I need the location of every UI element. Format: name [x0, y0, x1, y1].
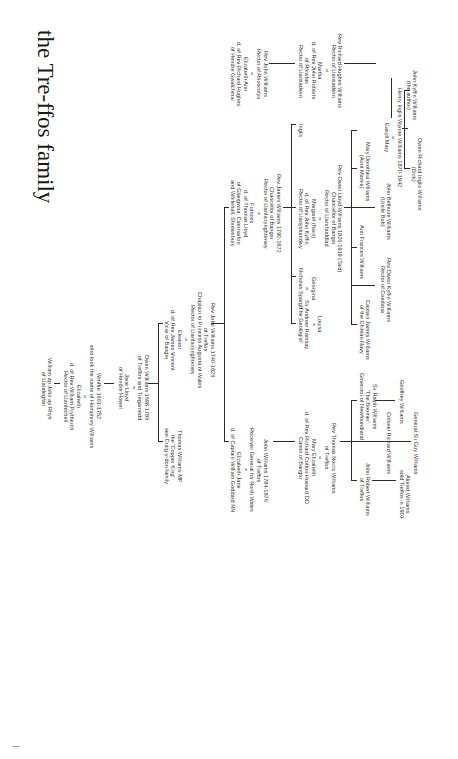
node-line: Chancellor of Bangor: [330, 165, 337, 272]
connector-line: [291, 323, 296, 324]
connector-line: [404, 90, 405, 168]
connector-line: [351, 247, 357, 248]
node-line: Rev Richard Hughes Williams: [337, 34, 344, 108]
node-line: Chaplain to Princess Augusta of Wales: [196, 292, 203, 388]
node-william-ap-john: William ap John ap Rhysof Llandegfan: [40, 358, 53, 420]
node-line: John Williams 1784-1876: [262, 428, 269, 512]
node-line: =: [130, 355, 137, 420]
node-line: Rector of Llanystumdwy: [297, 165, 304, 272]
node-line: of Treffos: [255, 428, 262, 512]
node-line: Rector of Llanfairynghornwy: [189, 292, 196, 388]
node-line: (Aunt Mamie): [358, 142, 365, 201]
node-line: d. of Rev William Prytherch: [69, 345, 76, 448]
node-line: Georgina: [310, 268, 317, 309]
node-line: =: [304, 268, 311, 309]
node-line: d. of Thomas Lloyd: [242, 174, 249, 253]
connector-line: [273, 441, 295, 442]
node-inglis: Inglis: [297, 124, 304, 137]
node-line: (Dick): [410, 138, 417, 210]
node-line: Mary Dorothea Williams: [365, 142, 372, 201]
node-line: Jane Lloyd: [124, 355, 131, 420]
node-line: Elizabeth: [75, 345, 82, 448]
node-line: Receiver General for North Wales: [249, 428, 256, 512]
connector-line: [351, 324, 357, 325]
connector-line: [351, 130, 352, 324]
node-rev-richard-hughes-williams: Rev Richard Hughes WilliamsRector of Lla…: [297, 34, 343, 108]
connector-line: [404, 90, 410, 91]
connector-line: [158, 323, 163, 324]
node-sir-ralph-williams: Sir Ralph Williams'The Boomer'Governor o…: [358, 373, 378, 440]
node-wmffre: Wmffre 1661-1752who took the name of Hum…: [62, 345, 102, 448]
node-line: Ann Frances Williams: [358, 225, 365, 279]
node-ann-frances-williams: Ann Frances Williams: [358, 225, 365, 279]
node-mary-dorothea-williams: Mary Dorothea Williams(Aunt Mamie): [358, 142, 371, 201]
node-line: Rector of Llanfairynghornwy: [262, 174, 269, 253]
node-line: Frances: [249, 174, 256, 253]
connector-line: [404, 168, 410, 169]
node-line: Easylt Mary: [383, 88, 390, 187]
connector-line: [351, 285, 375, 286]
node-line: Owen Williams 1698-1786: [143, 355, 150, 420]
node-line: =: [323, 34, 330, 108]
node-line: Thomas Williams MP: [176, 428, 183, 484]
node-line: Elizabeth Jane: [236, 428, 243, 512]
node-line: of Treffos and Tregarnedd: [137, 355, 144, 420]
node-line: see Craig-y-don family: [163, 428, 170, 484]
node-line: Governor of Newfoundland: [358, 373, 365, 440]
node-line: Inglis: [297, 124, 304, 137]
node-line: Wmffre 1661-1752: [95, 345, 102, 448]
node-line: of Treffos: [358, 463, 365, 516]
node-line: Margaret (Nain): [310, 165, 317, 272]
node-line: Vicar of Bangor: [163, 292, 170, 388]
node-line: John Kyffin Williams: [412, 70, 419, 120]
node-colonel-richard-williams: Colonel Richard Williams: [385, 412, 392, 474]
node-line: Alured Williams: [405, 470, 412, 519]
node-line: Owen Richard Inglis Williams: [417, 138, 424, 210]
node-line: Colonel Richard Williams: [385, 412, 392, 474]
node-line: of Treffos: [323, 412, 330, 504]
node-line: =: [183, 292, 190, 388]
node-line: of Hendre Howel: [117, 355, 124, 420]
connector-line: [351, 130, 357, 131]
connector-line: [148, 383, 158, 384]
connector-line: [291, 276, 296, 277]
node-line: Martha: [317, 34, 324, 108]
connector-line: [375, 400, 395, 401]
node-line: Rector of Rhoscolyn: [255, 42, 262, 106]
node-line: Rector of Llanrhuddlad: [323, 165, 330, 272]
node-line: Elizabeth Ann: [242, 42, 249, 106]
node-line: (the author): [405, 70, 412, 120]
node-general-sir-guy-williams: General Sir Guy Williams: [412, 412, 419, 474]
node-line: of Glangwna, Caernarfon: [236, 174, 243, 253]
node-captain-james-williams: Captain James Williamsof the Chilean Nav…: [358, 300, 371, 360]
node-henry-inglis-wynne-williams: Henry Inglis Wynne Williams 1870-1942=Ea…: [383, 88, 403, 187]
node-line: d. of Rev James Vincent: [170, 292, 177, 388]
node-rev-owen-lloyd-williams: Rev Owen Lloyd Williams 1826-1919 (Taid)…: [297, 165, 343, 272]
node-line: d. of Rev John Kyffin: [304, 165, 311, 272]
node-line: =: [255, 174, 262, 253]
node-line: Rev Owen Kyffin Williams: [386, 258, 393, 322]
connector-line: [291, 124, 292, 324]
connector-line: [344, 63, 376, 64]
page-mark: [12, 746, 20, 747]
node-line: =: [317, 165, 324, 272]
connector-line: [211, 323, 224, 324]
connector-line: [158, 323, 159, 441]
node-geoffrey-williams: Geoffrey Williams: [398, 380, 405, 424]
node-line: =: [249, 42, 256, 106]
node-line: Henry Inglis Wynne Williams 1870-1942: [396, 88, 403, 187]
connector-line: [104, 383, 114, 384]
node-line: Louisa: [317, 300, 324, 349]
connector-line: [372, 480, 396, 481]
node-line: Rector of Coedana: [379, 258, 386, 322]
node-thomas-williams-mp: Thomas Williams MPthe 'Copper King'see C…: [163, 428, 183, 484]
node-line: d. of Captain William Goddard RN: [229, 428, 236, 512]
node-line: Rev James Williams 1790-1872: [275, 174, 282, 253]
connector-line: [224, 441, 229, 442]
node-line: Chancellor of Bangor: [269, 174, 276, 253]
connector-line: [402, 128, 408, 129]
node-rev-john-williams-1740: Rev John Williams 1740-1826of TreffosCha…: [163, 292, 216, 388]
node-georgina: Georgina=Nicholas Spargo: [297, 268, 317, 309]
node-line: Rev John Williams: [262, 42, 269, 106]
node-john-bethune-williams: John Bethune Williams(Uncle Bob): [379, 183, 392, 240]
